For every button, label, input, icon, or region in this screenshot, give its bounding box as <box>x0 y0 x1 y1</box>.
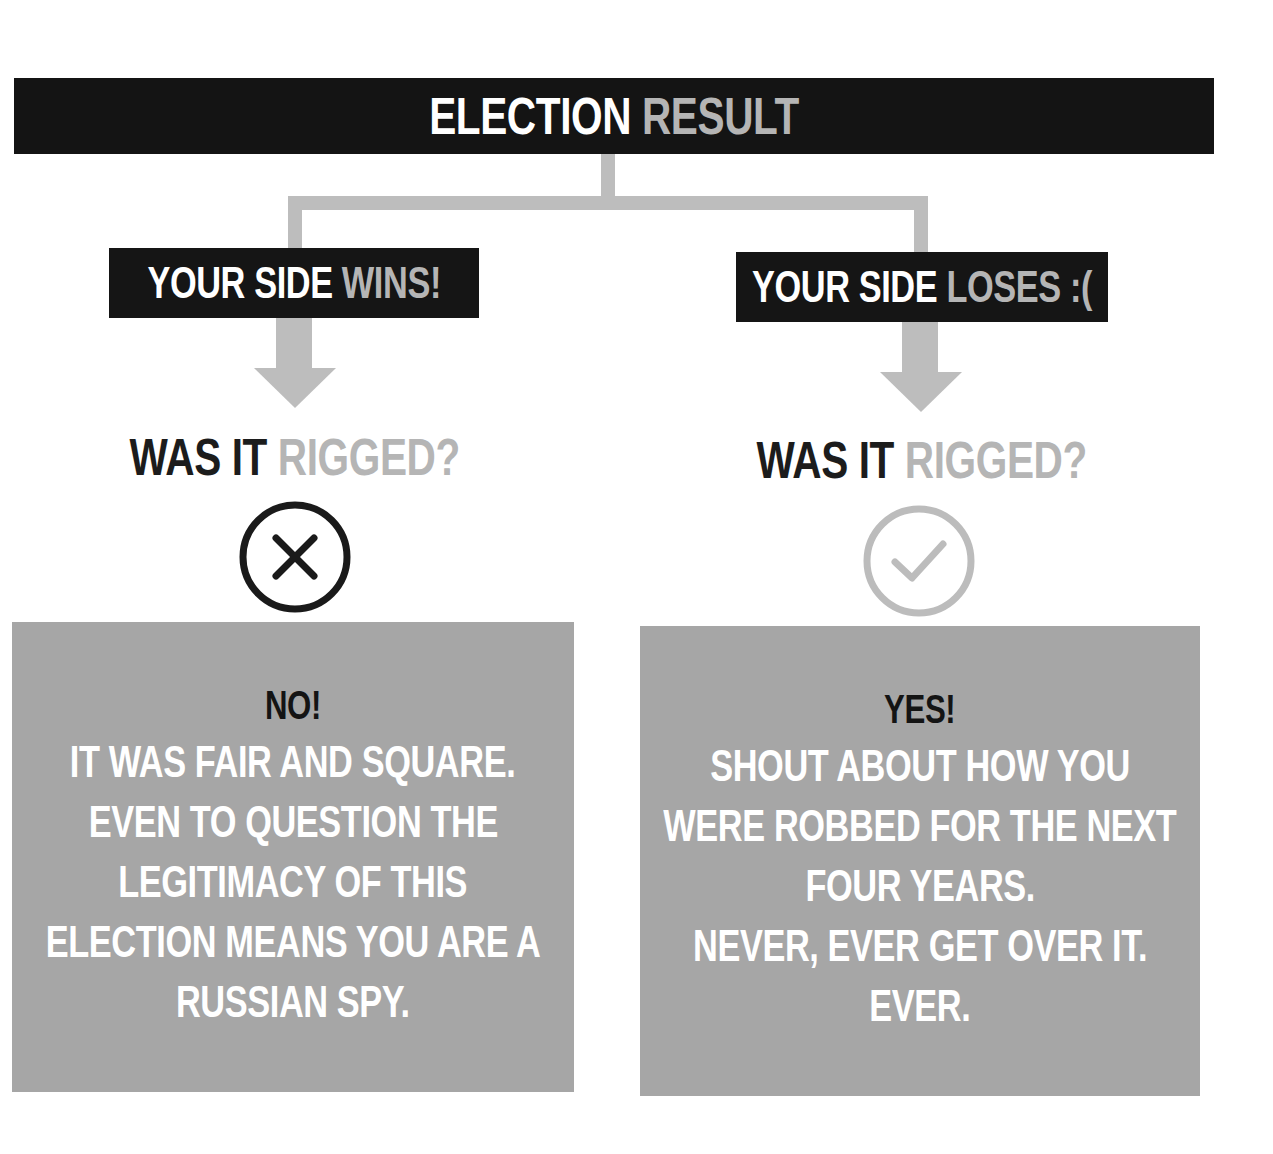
label-your-side: YOUR SIDE <box>147 258 332 307</box>
answer-line: EVEN TO QUESTION THE <box>88 792 497 852</box>
answer-head-yes: YES! <box>884 687 955 732</box>
question-was-it: WAS IT <box>130 428 267 486</box>
answer-line: RUSSIAN SPY. <box>176 972 410 1032</box>
title-part-election: ELECTION <box>429 87 631 145</box>
answer-box-no: NO! IT WAS FAIR AND SQUARE. EVEN TO QUES… <box>12 622 574 1092</box>
branch-label-loses: YOUR SIDE LOSES :( <box>736 252 1108 322</box>
x-circle-icon <box>238 500 352 614</box>
arrow-down-icon <box>254 368 336 408</box>
answer-head-no: NO! <box>265 683 321 728</box>
title-bar: ELECTION RESULT <box>14 78 1214 154</box>
arrow-right-shaft <box>902 322 938 374</box>
arrow-down-icon <box>880 372 962 412</box>
connector-stem <box>601 154 615 196</box>
branch-label-text: YOUR SIDE LOSES :( <box>752 262 1092 312</box>
question-right: WAS IT RIGGED? <box>687 425 1157 495</box>
branch-label-wins: YOUR SIDE WINS! <box>109 248 479 318</box>
label-loses: LOSES :( <box>946 262 1092 311</box>
question-was-it: WAS IT <box>757 431 894 489</box>
question-rigged: RIGGED? <box>905 431 1087 489</box>
page-title: ELECTION RESULT <box>429 86 799 146</box>
title-part-result: RESULT <box>642 87 799 145</box>
connector-left-drop <box>288 196 302 256</box>
question-rigged: RIGGED? <box>278 428 460 486</box>
answer-line: IT WAS FAIR AND SQUARE. <box>70 732 515 792</box>
question-text: WAS IT RIGGED? <box>757 430 1087 490</box>
check-circle-icon <box>862 504 976 618</box>
question-left: WAS IT RIGGED? <box>60 422 530 492</box>
label-your-side: YOUR SIDE <box>752 262 937 311</box>
question-text: WAS IT RIGGED? <box>130 427 460 487</box>
answer-line: WERE ROBBED FOR THE NEXT <box>663 796 1176 856</box>
branch-label-text: YOUR SIDE WINS! <box>147 258 441 308</box>
answer-line: EVER. <box>869 976 970 1036</box>
label-wins: WINS! <box>342 258 441 307</box>
answer-box-yes: YES! SHOUT ABOUT HOW YOU WERE ROBBED FOR… <box>640 626 1200 1096</box>
answer-line: ELECTION MEANS YOU ARE A <box>46 912 541 972</box>
arrow-left-shaft <box>276 318 312 370</box>
answer-line: FOUR YEARS. <box>805 856 1035 916</box>
connector-right-drop <box>914 196 928 258</box>
answer-line: NEVER, EVER GET OVER IT. <box>693 916 1147 976</box>
connector-horizontal <box>288 196 928 210</box>
answer-line: SHOUT ABOUT HOW YOU <box>710 736 1130 796</box>
answer-line: LEGITIMACY OF THIS <box>119 852 468 912</box>
